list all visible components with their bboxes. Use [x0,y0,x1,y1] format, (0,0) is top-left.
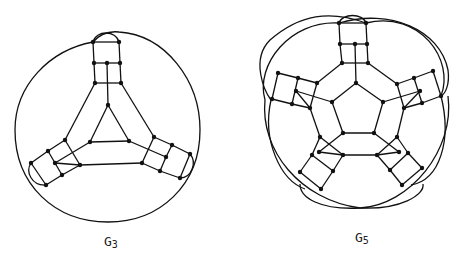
caption-g3-sub: 3 [112,239,118,250]
caption-g5-sub: 5 [363,235,369,246]
caption-g5-main: G [355,230,363,245]
graph-figure [0,0,462,263]
graph-g5 [260,16,449,209]
caption-g3-main: G [104,234,112,249]
caption-g3: G3 [104,234,118,249]
caption-g5: G5 [355,230,369,245]
graph-g3 [15,32,200,222]
